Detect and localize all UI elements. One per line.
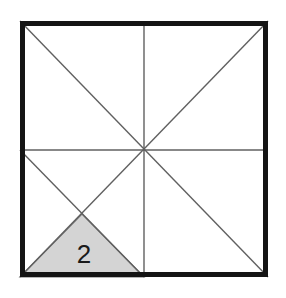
geometry-figure: 2 [0, 0, 286, 298]
shaded-region-label: 2 [77, 239, 91, 269]
figure-canvas: 2 [0, 0, 286, 298]
